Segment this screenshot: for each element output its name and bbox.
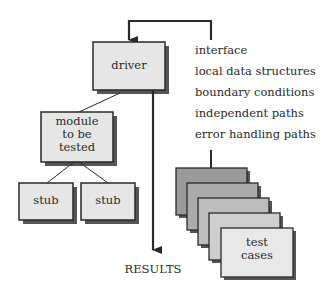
checklist-item-independent-paths: independent paths — [195, 106, 304, 120]
driver-module-connector — [79, 93, 120, 112]
checklist-item-interface: interface — [195, 43, 247, 57]
unit-test-environment-diagram: driver module to be tested stub stub RES… — [0, 0, 321, 296]
checklist-item-local-data-structures: local data structures — [195, 64, 316, 78]
stub-label-1: stub — [19, 194, 73, 207]
test-cases-label: test cases — [221, 236, 293, 262]
test-case-stack — [176, 168, 296, 280]
driver-label: driver — [93, 59, 165, 72]
checklist-item-boundary-conditions: boundary conditions — [195, 85, 314, 99]
module-label: module to be tested — [41, 115, 113, 155]
feedback-arrow — [129, 21, 211, 40]
test-cases-line2: cases — [221, 249, 293, 262]
checklist-item-error-handling-paths: error handling paths — [195, 127, 316, 141]
module-label-line3: tested — [41, 141, 113, 154]
results-label: RESULTS — [118, 263, 188, 276]
stub-label-2: stub — [81, 194, 135, 207]
